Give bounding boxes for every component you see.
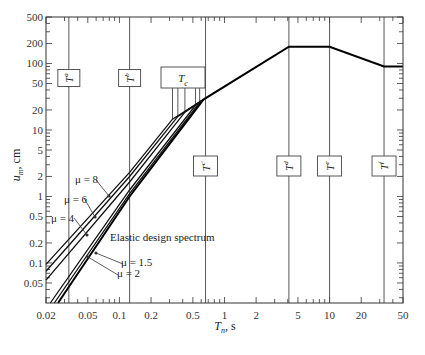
period-label-box: Te xyxy=(318,156,342,176)
period-label-box: Td xyxy=(277,156,301,176)
label-mu4: μ = 4 xyxy=(51,212,75,224)
x-tick-label: 0.2 xyxy=(144,309,158,321)
label-mu6: μ = 6 xyxy=(64,193,88,205)
y-tick-label: 20 xyxy=(32,104,44,116)
axis-ticks xyxy=(46,17,403,303)
x-tick-label: 5 xyxy=(295,309,301,321)
period-label-box: Tc' xyxy=(194,156,218,176)
x-axis-unit: , s xyxy=(225,319,236,333)
y-tick-label: 10 xyxy=(32,124,44,136)
y-tick-label: 500 xyxy=(27,11,44,23)
y-tick-label: 0.2 xyxy=(29,237,43,249)
y-tick-label: 0.5 xyxy=(29,210,43,222)
marker-mu15 xyxy=(94,251,97,254)
y-tick-label: 100 xyxy=(27,57,44,69)
plot-frame xyxy=(46,17,403,303)
y-tick-label: 5 xyxy=(38,144,44,156)
label-mu2: μ = 2 xyxy=(117,267,140,279)
leader-mu15 xyxy=(96,253,123,264)
spectrum-curves xyxy=(46,47,403,303)
x-tick-label: 0.5 xyxy=(186,309,200,321)
y-tick-label: 0.05 xyxy=(24,277,44,289)
y-tick-label: 200 xyxy=(27,37,44,49)
x-tick-label: 2 xyxy=(253,309,259,321)
inelastic-deformation-spectrum-chart: 0.020.050.10.20.51251020500.050.10.20.51… xyxy=(0,0,425,355)
period-label-box: Tf xyxy=(372,156,396,176)
marker-mu4 xyxy=(85,233,88,236)
label-mu8: μ = 8 xyxy=(75,173,99,185)
curve-mu-4 xyxy=(46,100,203,281)
period-label-box: Tb xyxy=(119,70,141,87)
x-tick-label: 0.02 xyxy=(36,309,55,321)
marker-mu8 xyxy=(107,194,110,197)
x-axis-title: Tn, s xyxy=(214,319,236,335)
x-tick-label: 20 xyxy=(356,309,368,321)
period-label-box: Ta xyxy=(58,70,80,87)
y-tick-label: 2 xyxy=(38,170,44,182)
x-tick-label: 0.05 xyxy=(78,309,98,321)
y-axis-unit: , cm xyxy=(9,148,23,169)
x-tick-label: 10 xyxy=(324,309,336,321)
label-elastic: Elastic design spectrum xyxy=(110,231,215,243)
period-markers: TaTbTcTc'TdTeTf xyxy=(58,17,396,303)
y-tick-label: 50 xyxy=(32,77,44,89)
tc-group: Tc xyxy=(161,67,205,119)
y-tick-label: 1 xyxy=(38,190,44,202)
x-tick-label: 50 xyxy=(398,309,410,321)
marker-mu2 xyxy=(86,255,89,258)
y-tick-label: 0.1 xyxy=(29,257,43,269)
svg-text:um, cm: um, cm xyxy=(9,148,25,181)
curve-elastic-design-spectrum xyxy=(58,47,403,303)
marker-mu6 xyxy=(93,215,96,218)
x-tick-label: 0.1 xyxy=(113,309,127,321)
svg-text:Tn, s: Tn, s xyxy=(214,319,236,335)
y-axis-title: um, cm xyxy=(9,148,25,181)
